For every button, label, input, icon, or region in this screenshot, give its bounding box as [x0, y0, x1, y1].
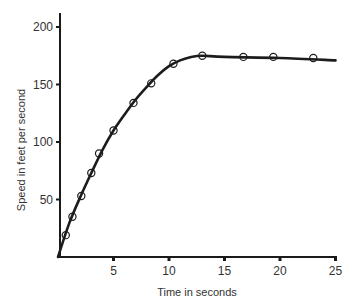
- x-ticks: 510152025: [110, 257, 342, 278]
- y-tick-label: 200: [33, 20, 53, 34]
- fitted-curve: [58, 56, 336, 257]
- x-tick-label: 15: [218, 264, 232, 278]
- axes: [59, 13, 337, 257]
- y-tick-label: 50: [40, 193, 54, 207]
- y-axis-title: Speed in feet per second: [15, 89, 27, 211]
- x-axis-title: Time in seconds: [157, 286, 237, 298]
- x-tick-label: 10: [162, 264, 176, 278]
- x-tick-label: 20: [273, 264, 287, 278]
- data-markers: [62, 52, 317, 239]
- speed-time-chart: 510152025 50100150200 Time in seconds Sp…: [0, 0, 353, 307]
- y-tick-label: 150: [33, 78, 53, 92]
- y-ticks: 50100150200: [33, 20, 60, 207]
- x-tick-label: 25: [329, 264, 343, 278]
- y-tick-label: 100: [33, 135, 53, 149]
- x-tick-label: 5: [110, 264, 117, 278]
